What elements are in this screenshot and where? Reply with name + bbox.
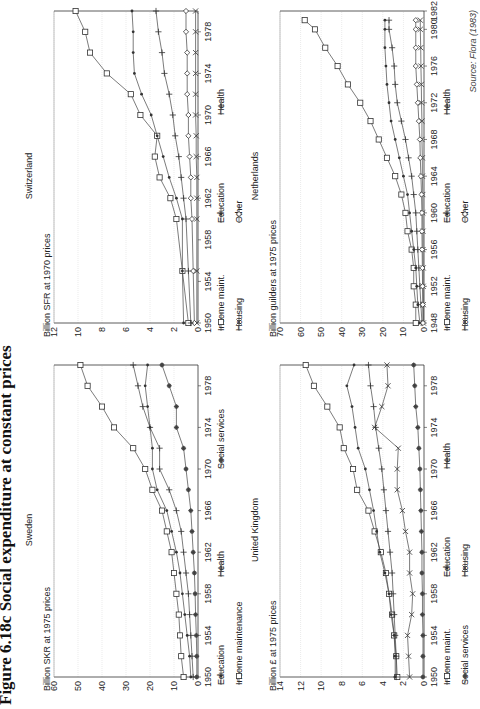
legend-item: Health (442, 443, 452, 469)
legend-item: Other (460, 200, 470, 223)
svg-text:1962: 1962 (203, 542, 213, 562)
svg-text:1982: 1982 (429, 1, 439, 21)
legend-item: Income maint. (216, 274, 226, 331)
diamond-marker-icon (460, 205, 470, 223)
svg-text:2: 2 (169, 327, 179, 332)
svg-text:1978: 1978 (203, 376, 213, 396)
legend-item: Income maint. (442, 628, 452, 685)
x-marker-icon (460, 559, 470, 577)
chart-legend: Income maint.EducationHealthSocial servi… (442, 355, 480, 705)
chart-panel-sweden: Sweden Billion SKR at 1975 prices 010203… (20, 355, 260, 705)
chart-panel-switzerland: Switzerland Billion SFR at 1970 prices 0… (20, 1, 260, 351)
svg-text:60: 60 (296, 327, 306, 337)
series-social-services (411, 362, 425, 679)
svg-text:1966: 1966 (203, 501, 213, 521)
legend-item: Housing (460, 544, 470, 577)
square-marker-icon (234, 667, 244, 685)
svg-text:1958: 1958 (429, 584, 439, 604)
svg-text:1978: 1978 (203, 22, 213, 42)
dot-marker-icon (442, 559, 452, 577)
svg-text:30: 30 (121, 681, 131, 691)
svg-text:1954: 1954 (429, 625, 439, 645)
rotated-page: Figure 6.18c Social expenditure at const… (0, 0, 480, 709)
series-income-maint- (302, 18, 418, 326)
legend-item: Education (216, 645, 226, 685)
source-note: Source: Flora (1983) (468, 10, 478, 93)
dot-marker-icon (442, 205, 452, 223)
series-social-services (159, 362, 199, 679)
svg-text:70: 70 (275, 327, 285, 337)
svg-text:1980: 1980 (429, 19, 439, 39)
series-education (131, 10, 185, 325)
svg-text:1964: 1964 (429, 166, 439, 186)
chart-panel-netherlands: Netherlands Billion guilders at 1975 pri… (246, 1, 480, 351)
svg-text:4: 4 (378, 681, 388, 686)
svg-text:1950: 1950 (203, 313, 213, 333)
svg-text:1974: 1974 (429, 417, 439, 437)
series-health (365, 362, 399, 680)
svg-text:1976: 1976 (429, 56, 439, 76)
legend-item: Housing (460, 298, 470, 331)
svg-text:30: 30 (357, 327, 367, 337)
svg-text:12: 12 (49, 327, 59, 337)
series-education (345, 364, 396, 679)
svg-text:1952: 1952 (429, 276, 439, 296)
svg-text:8: 8 (97, 327, 107, 332)
legend-item: Education (442, 183, 452, 223)
svg-text:1966: 1966 (203, 147, 213, 167)
svg-text:1948: 1948 (429, 313, 439, 333)
legend-item: Other (234, 200, 244, 223)
plus-marker-icon (216, 97, 226, 115)
svg-text:10: 10 (316, 681, 326, 691)
svg-text:1972: 1972 (429, 93, 439, 113)
svg-text:4: 4 (145, 327, 155, 332)
dot-marker-icon (216, 667, 226, 685)
star-marker-icon (460, 667, 470, 685)
svg-text:1968: 1968 (429, 129, 439, 149)
svg-text:2: 2 (398, 681, 408, 686)
series-education (144, 364, 192, 679)
series-income-maint- (303, 362, 400, 679)
series-housing (193, 8, 199, 325)
svg-text:20: 20 (378, 327, 388, 337)
svg-text:10: 10 (398, 327, 408, 337)
square-marker-icon (442, 667, 452, 685)
svg-text:1956: 1956 (429, 240, 439, 260)
svg-text:6: 6 (357, 681, 367, 686)
svg-text:1958: 1958 (203, 230, 213, 250)
svg-text:0: 0 (419, 681, 429, 686)
legend-item: Social services (216, 409, 226, 469)
svg-text:0: 0 (193, 681, 203, 686)
svg-text:40: 40 (337, 327, 347, 337)
svg-text:1962: 1962 (203, 188, 213, 208)
svg-text:10: 10 (169, 681, 179, 691)
series-health (153, 8, 194, 326)
series-health (386, 17, 425, 326)
svg-text:14: 14 (275, 681, 285, 691)
svg-text:50: 50 (316, 327, 326, 337)
legend-item: Health (442, 89, 452, 115)
svg-text:1978: 1978 (429, 376, 439, 396)
legend-item: Social services (460, 625, 470, 685)
svg-text:12: 12 (296, 681, 306, 691)
legend-item: Health (216, 551, 226, 577)
legend-item: Education (216, 183, 226, 223)
svg-text:1958: 1958 (203, 584, 213, 604)
chart-panel-united-kingdom: United Kingdom Billion £ at 1975 prices … (246, 355, 480, 705)
svg-text:1962: 1962 (429, 542, 439, 562)
svg-text:1950: 1950 (203, 667, 213, 687)
series-income-maintenance (78, 362, 186, 679)
svg-text:60: 60 (49, 681, 59, 691)
svg-text:1970: 1970 (203, 459, 213, 479)
series-health (130, 362, 196, 680)
legend-item: Income maint. (442, 274, 452, 331)
series-other (183, 8, 197, 325)
svg-text:0: 0 (193, 327, 203, 332)
square-marker-icon (216, 313, 226, 331)
figure-title: Figure 6.18c Social expenditure at const… (0, 345, 16, 705)
svg-text:8: 8 (337, 681, 347, 686)
series-housing (418, 18, 426, 326)
diamond-marker-icon (234, 205, 244, 223)
legend-item: Income maintenance (234, 601, 244, 685)
legend-item: Education (442, 537, 452, 577)
